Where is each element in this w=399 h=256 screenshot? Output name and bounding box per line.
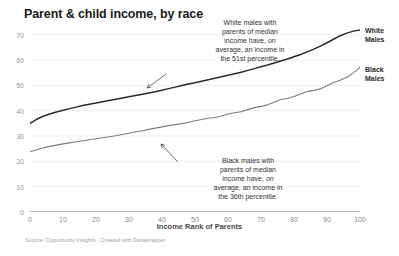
series-label-black-males: Black Males <box>365 66 384 83</box>
series-label-black-line2: Males <box>365 75 384 84</box>
chart-card: Parent & child income, by race 010203040… <box>0 0 399 256</box>
y-tick-label: 40 <box>6 107 24 114</box>
annotation-white-line4: average, an income in <box>186 45 314 54</box>
annotation-arrow <box>147 74 166 88</box>
y-tick-label: 10 <box>6 183 24 190</box>
series-label-white-line2: Males <box>365 36 384 45</box>
y-tick-label: 30 <box>6 133 24 140</box>
annotation-white-line3: income have, on <box>186 36 314 45</box>
y-tick-label: 0 <box>6 209 24 216</box>
y-tick-label: 50 <box>6 82 24 89</box>
annotation-black-line3: income have, on <box>184 174 312 183</box>
y-tick-label: 20 <box>6 158 24 165</box>
series-label-leader-line <box>359 22 360 30</box>
annotation-black-males: Black males with parents of median incom… <box>184 156 312 201</box>
annotation-arrow <box>161 144 178 162</box>
series-label-black-line1: Black <box>365 66 384 75</box>
series-label-white-line1: White <box>365 27 384 36</box>
annotation-black-line5: the 36th percentile. <box>184 192 312 201</box>
chart-title: Parent & child income, by race <box>24 7 203 21</box>
annotation-white-line2: parents of median <box>186 27 314 36</box>
annotation-black-line4: average, an income in <box>184 183 312 192</box>
annotation-black-line2: parents of median <box>184 165 312 174</box>
source-note: Source: Opportunity Insights · Created w… <box>25 237 166 243</box>
annotation-white-males: White males with parents of median incom… <box>186 18 314 63</box>
series-line-black-males <box>30 68 360 152</box>
annotation-white-line5: the 51st percentile. <box>186 54 314 63</box>
x-axis-title: Income Rank of Parents <box>0 222 399 231</box>
y-tick-label: 70 <box>6 31 24 38</box>
annotation-black-line1: Black males with <box>184 156 312 165</box>
y-tick-label: 60 <box>6 57 24 64</box>
series-label-leader-line <box>359 62 360 68</box>
series-label-white-males: White Males <box>365 27 384 44</box>
annotation-white-line1: White males with <box>186 18 314 27</box>
